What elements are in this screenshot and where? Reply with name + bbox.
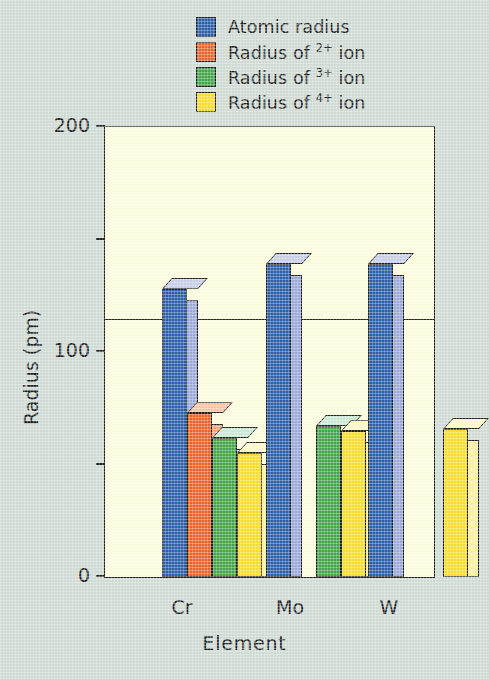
plot-area — [104, 126, 435, 578]
legend-label: Radius of 4+ ion — [228, 91, 365, 113]
bar-front-face — [187, 413, 212, 577]
bar-side-face — [393, 275, 404, 577]
bar-cr-radius-of-3-ion — [212, 438, 237, 578]
bar-mo-radius-of-3-ion — [316, 426, 341, 577]
y-tick-major — [96, 350, 105, 352]
bar-front-face — [316, 426, 341, 577]
y-tick-minor — [96, 238, 105, 240]
y-tick-major — [96, 575, 105, 577]
bar-front-face — [443, 429, 468, 578]
y-axis-title: Radius (pm) — [20, 310, 42, 425]
y-tick-minor — [96, 463, 105, 465]
bar-mo-atomic-radius — [266, 264, 291, 577]
bar-mo-radius-of-4-ion — [341, 431, 366, 577]
legend-swatch — [196, 42, 216, 62]
bar-front-face — [212, 438, 237, 578]
y-tick-major — [96, 125, 105, 127]
y-tick-label: 200 — [24, 114, 90, 136]
legend-item: Radius of 3+ ion — [196, 64, 365, 89]
bar-cr-radius-of-4-ion — [237, 453, 262, 577]
x-tick-label-mo: Mo — [245, 596, 335, 618]
bar-w-atomic-radius — [368, 264, 393, 577]
legend-swatch — [196, 17, 216, 37]
legend-item: Atomic radius — [196, 14, 365, 39]
legend-swatch — [196, 67, 216, 87]
legend-item: Radius of 4+ ion — [196, 89, 365, 114]
legend-label: Radius of 2+ ion — [228, 41, 365, 63]
x-tick-label-w: W — [344, 596, 434, 618]
bar-front-face — [266, 264, 291, 577]
bar-front-face — [237, 453, 262, 577]
bar-cr-radius-of-2-ion — [187, 413, 212, 577]
bar-side-face — [291, 275, 302, 577]
bar-cr-atomic-radius — [162, 289, 187, 577]
bar-top-face — [187, 402, 233, 413]
bar-side-face — [468, 440, 479, 578]
bar-top-face — [266, 253, 312, 264]
bar-front-face — [368, 264, 393, 577]
legend-label: Radius of 3+ ion — [228, 66, 365, 88]
y-tick-label: 0 — [24, 564, 90, 586]
bar-top-face — [162, 278, 208, 289]
x-axis-title: Element — [0, 632, 489, 654]
legend-swatch — [196, 92, 216, 112]
bar-top-face — [443, 418, 489, 429]
legend-label: Atomic radius — [228, 17, 350, 37]
bar-front-face — [162, 289, 187, 577]
x-tick-label-cr: Cr — [137, 596, 227, 618]
bar-front-face — [341, 431, 366, 577]
bar-top-face — [368, 253, 414, 264]
legend-item: Radius of 2+ ion — [196, 39, 365, 64]
chart-legend: Atomic radiusRadius of 2+ ionRadius of 3… — [196, 14, 365, 114]
bar-w-radius-of-4-ion — [443, 429, 468, 578]
